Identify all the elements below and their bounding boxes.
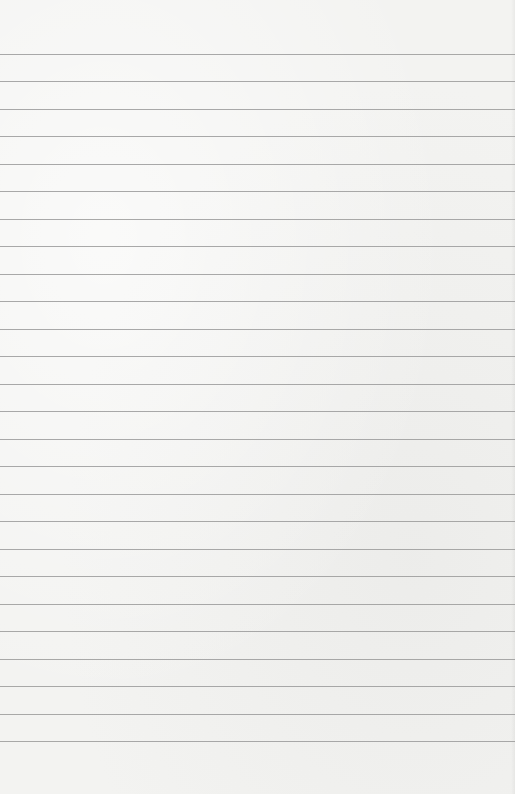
ruled-line xyxy=(0,741,515,742)
ruled-line xyxy=(0,329,515,330)
ruled-line xyxy=(0,136,515,137)
ruled-line xyxy=(0,191,515,192)
ruled-line xyxy=(0,631,515,632)
ruled-line xyxy=(0,686,515,687)
ruled-line xyxy=(0,576,515,577)
ruled-line xyxy=(0,604,515,605)
ruled-line xyxy=(0,164,515,165)
ruled-line xyxy=(0,521,515,522)
ruled-line xyxy=(0,356,515,357)
ruled-line xyxy=(0,109,515,110)
ruled-line xyxy=(0,274,515,275)
ruled-line xyxy=(0,411,515,412)
ruled-line xyxy=(0,659,515,660)
paper-edge-shadow xyxy=(511,0,515,794)
ruled-line xyxy=(0,549,515,550)
ruled-line xyxy=(0,384,515,385)
lined-paper-sheet xyxy=(0,0,515,794)
ruled-line xyxy=(0,54,515,55)
ruled-line xyxy=(0,301,515,302)
ruled-line xyxy=(0,439,515,440)
ruled-line xyxy=(0,246,515,247)
ruled-line xyxy=(0,219,515,220)
ruled-line xyxy=(0,494,515,495)
ruled-line xyxy=(0,81,515,82)
ruled-line xyxy=(0,714,515,715)
ruled-line xyxy=(0,466,515,467)
